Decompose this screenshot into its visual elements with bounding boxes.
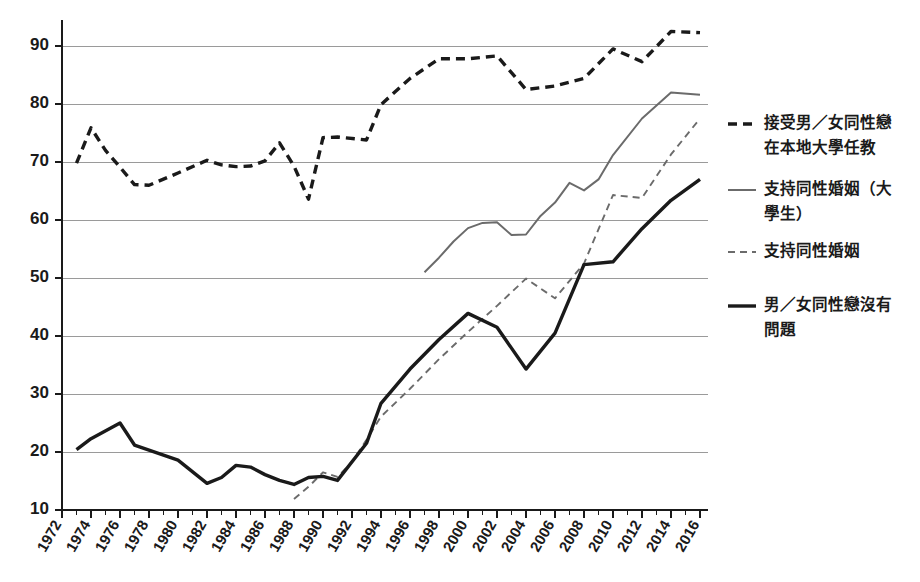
legend-label-0[interactable]: 接受男／女同性戀 (764, 113, 892, 131)
x-tick-label-1996: 1996 (381, 517, 412, 554)
x-tick-label-1976: 1976 (91, 517, 122, 554)
legend-label-0[interactable]: 在本地大學任教 (764, 138, 876, 156)
x-tick-label-1998: 1998 (410, 517, 441, 554)
legend-label-2[interactable]: 支持同性婚姻 (763, 241, 860, 259)
legend-label-1[interactable]: 學生） (764, 204, 812, 222)
y-tick-label-90: 90 (30, 35, 49, 54)
x-tick-label-2014: 2014 (642, 516, 674, 554)
x-tick-label-2008: 2008 (555, 517, 586, 554)
x-tick-label-1992: 1992 (323, 517, 354, 554)
y-tick-label-60: 60 (30, 209, 49, 228)
x-tick-label-2010: 2010 (584, 517, 615, 554)
series-line-2 (294, 119, 700, 499)
x-tick-label-1978: 1978 (120, 517, 151, 554)
series-line-0 (77, 32, 701, 200)
x-tick-label-1982: 1982 (178, 517, 209, 554)
x-tick-label-1990: 1990 (294, 517, 325, 554)
line-chart: 102030405060708090 197219741976197819801… (0, 0, 920, 582)
x-tick-label-1986: 1986 (236, 517, 267, 554)
x-tick-label-1974: 1974 (62, 516, 94, 554)
x-tick-label-1988: 1988 (265, 517, 296, 554)
y-tick-label-40: 40 (30, 325, 49, 344)
axes (62, 20, 708, 510)
x-tick-label-1972: 1972 (33, 517, 64, 554)
y-tick-label-50: 50 (30, 267, 49, 286)
x-tick-label-2012: 2012 (613, 517, 644, 554)
y-tick-label-10: 10 (30, 499, 49, 518)
x-tick-label-2000: 2000 (439, 517, 470, 554)
x-tick-label-2016: 2016 (671, 517, 702, 554)
chart-legend: 接受男／女同性戀在本地大學任教支持同性婚姻（大學生）支持同性婚姻男／女同性戀沒有… (728, 113, 892, 338)
x-axis-tick-labels: 1972197419761978198019821984198619881990… (33, 516, 702, 554)
legend-label-3[interactable]: 問題 (764, 321, 796, 338)
x-tick-label-1984: 1984 (207, 516, 239, 554)
data-series (77, 32, 701, 499)
series-line-1 (425, 92, 701, 272)
x-tick-label-2004: 2004 (497, 516, 529, 554)
series-line-3 (77, 179, 701, 484)
x-tick-label-2006: 2006 (526, 517, 557, 554)
y-tick-label-70: 70 (30, 151, 49, 170)
y-tick-label-30: 30 (30, 383, 49, 402)
x-tick-label-2002: 2002 (468, 517, 499, 554)
gridlines (62, 46, 708, 452)
y-tick-label-80: 80 (30, 93, 49, 112)
legend-label-3[interactable]: 男／女同性戀沒有 (764, 295, 892, 313)
x-tick-label-1980: 1980 (149, 517, 180, 554)
y-axis-tick-labels: 102030405060708090 (30, 35, 49, 518)
chart-container: 102030405060708090 197219741976197819801… (0, 0, 920, 582)
y-tick-label-20: 20 (30, 441, 49, 460)
x-tick-label-1994: 1994 (352, 516, 384, 554)
legend-label-1[interactable]: 支持同性婚姻（大 (763, 179, 892, 197)
